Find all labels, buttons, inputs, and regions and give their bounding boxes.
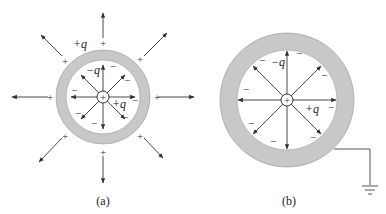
svg-text:+: + [62,55,68,67]
outer-charge-label-a: +q [73,37,87,51]
svg-text:−: − [243,83,249,95]
svg-text:−: − [122,111,128,123]
center-charge-label-a: +q [112,97,126,111]
svg-text:+: + [137,53,143,65]
inner-charge-label-b: −q [271,55,285,69]
panel-b: + − − − − − − − − −q +q (b) [220,33,378,208]
caption-b: (b) [282,194,296,208]
svg-text:+: + [137,130,143,142]
svg-text:−: − [310,131,316,143]
svg-text:+: + [154,91,160,103]
svg-text:−: − [321,69,327,81]
svg-text:−: − [124,74,130,86]
panel-a: + + + + + + + + + − − − − − − − +q −q +q… [12,13,194,208]
center-charge-label-b: +q [305,102,319,116]
center-plus-sign-a: + [100,91,106,103]
ground-icon [362,186,378,194]
svg-text:−: − [132,94,138,106]
svg-text:+: + [100,146,106,158]
svg-text:−: − [328,101,334,113]
svg-text:−: − [270,135,276,147]
caption-a: (a) [96,194,109,208]
svg-text:−: − [296,47,302,59]
svg-text:+: + [62,130,68,142]
svg-text:−: − [71,84,77,96]
svg-text:+: + [47,91,53,103]
ground-wire [334,149,370,185]
center-plus-sign-b: + [284,94,290,106]
svg-text:−: − [91,117,97,129]
svg-text:−: − [259,54,265,66]
svg-text:−: − [248,117,254,129]
inner-charge-label-a: −q [86,63,100,77]
svg-text:−: − [110,60,116,72]
svg-text:+: + [100,37,106,49]
figure-canvas: + + + + + + + + + − − − − − − − +q −q +q… [0,0,386,214]
svg-text:−: − [75,107,81,119]
